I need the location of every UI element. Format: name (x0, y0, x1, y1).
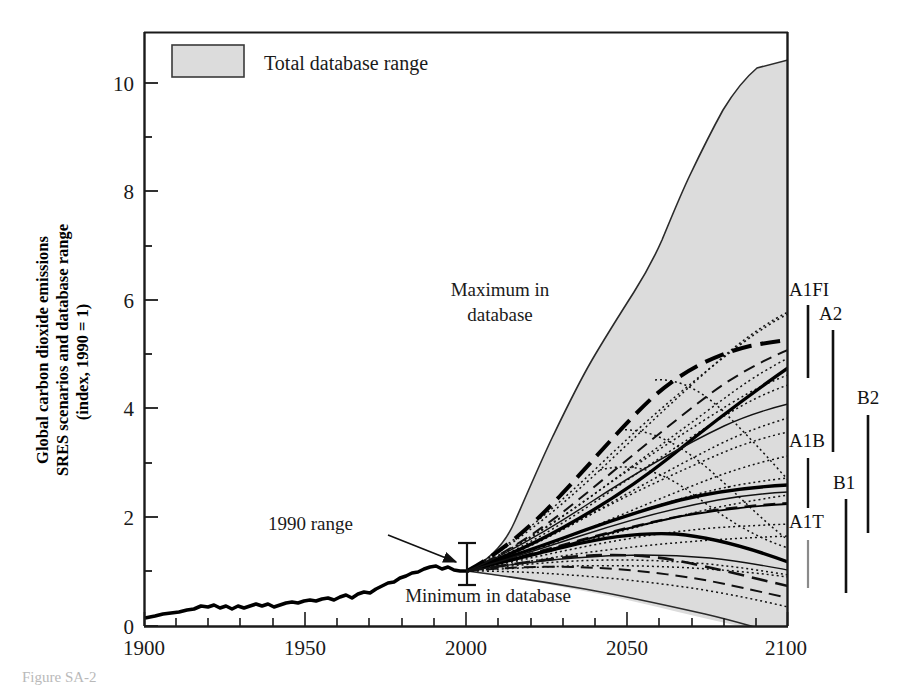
x-tick-2050: 2050 (606, 636, 648, 660)
scenario-label-b2: B2 (857, 387, 879, 408)
legend-swatch-total-database-range (172, 45, 244, 77)
co2-emissions-chart: 0 2 4 6 8 10 (0, 0, 907, 685)
figure-root: 0 2 4 6 8 10 (0, 0, 907, 685)
x-tick-2000: 2000 (445, 636, 487, 660)
y-axis-title-line2: SRES scenarios and database range (53, 224, 72, 476)
annotation-maximum-line2: database (467, 304, 532, 325)
y-tick-8: 8 (124, 180, 135, 204)
scenario-label-b1: B1 (833, 472, 855, 493)
x-tick-1900: 1900 (123, 636, 165, 660)
scenario-label-a2: A2 (819, 303, 842, 324)
x-tick-2100: 2100 (765, 636, 807, 660)
x-tick-1950: 1950 (284, 636, 326, 660)
y-tick-2: 2 (124, 506, 135, 530)
annotation-maximum-line1: Maximum in (451, 279, 550, 300)
y-tick-4: 4 (124, 397, 135, 421)
scenario-label-a1t: A1T (789, 511, 824, 532)
y-tick-10: 10 (113, 72, 134, 96)
scenario-label-a1b: A1B (789, 430, 825, 451)
annotation-1990-range-label: 1990 range (268, 513, 353, 534)
y-axis-title-line1: Global carbon dioxide emissions (33, 236, 52, 464)
legend-label-total-database-range: Total database range (264, 52, 428, 75)
annotation-minimum-in-database: Minimum in database (405, 585, 571, 606)
y-axis-title-line3: (index, 1990 = 1) (73, 304, 92, 421)
y-tick-6: 6 (124, 289, 135, 313)
scenario-label-a1fi: A1FI (789, 279, 829, 300)
figure-caption: Figure SA-2 (22, 669, 97, 685)
